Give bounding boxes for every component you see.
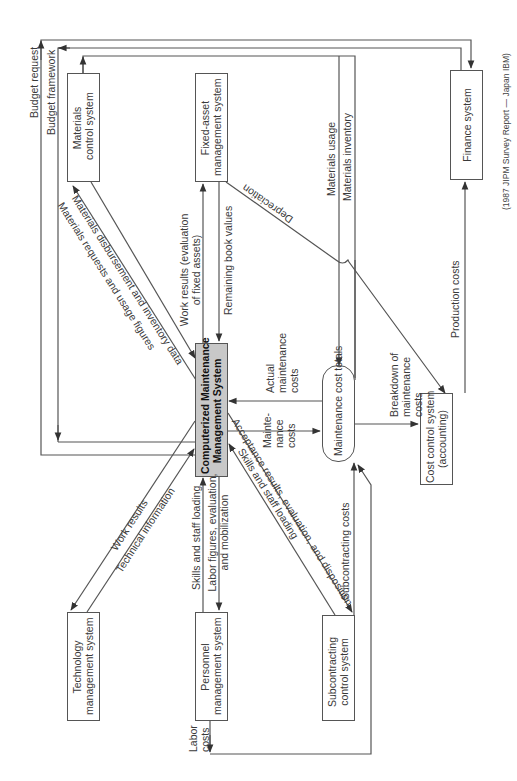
production-costs-label: Production costs [449,260,461,338]
labor-costs-label: Labor costs [187,725,211,752]
actual-maintenance-costs-label: Actual maintenance costs [264,333,300,393]
labor-figures-label: Labor figures, evaluation, and mobilizat… [206,470,230,595]
cmms-data-flow-diagram: Materials control system Fixed-asset man… [0,0,517,781]
work-results-fixed-assets-label: Work results (evaluation of fixed assets… [178,200,202,340]
cost-control-label: Cost control system (accounting) [424,395,448,483]
maintenance-cost-totals-label: Maintenance cost totals [332,372,344,456]
materials-control-label: Materials control system [71,96,95,160]
maintenance-cost-totals-node: Maintenance cost totals [322,365,355,462]
fixed-asset-management-system-box: Fixed-asset management system [195,73,228,182]
budget-framework-label: Budget framework [45,50,57,135]
materials-control-system-box: Materials control system [67,73,100,182]
finance-system-box: Finance system [450,70,483,180]
maintenance-costs-label: Mainte- nance costs [261,413,297,448]
skills-staff-loading-label: Skills and staff loading [190,486,202,590]
technology-label: Technology management system [71,619,95,715]
materials-usage-label: Materials usage [325,122,337,196]
source-credit: (1987 JIPM Survey Report — Japan IBM) [500,53,512,210]
cmms-label: Computerized Maintenance Management Syst… [199,348,223,474]
fixed-asset-label: Fixed-asset management system [199,80,223,176]
budget-request-label: Budget request [28,47,40,118]
cmms-center-box: Computerized Maintenance Management Syst… [195,343,228,477]
subcontracting-label: Subcontracting control system [326,628,350,716]
technology-management-system-box: Technology management system [67,612,100,721]
cost-control-system-box: Cost control system (accounting) [420,393,453,485]
subcontracting-control-system-box: Subcontracting control system [322,615,355,721]
personnel-label: Personnel management system [199,619,223,715]
breakdown-maintenance-costs-label: Breakdown of maintenance costs [388,353,424,417]
remaining-book-values-label: Remaining book values [222,206,234,315]
materials-inventory-label: Materials inventory [341,113,353,201]
finance-label: Finance system [461,87,473,163]
personnel-management-system-box: Personnel management system [195,612,228,721]
